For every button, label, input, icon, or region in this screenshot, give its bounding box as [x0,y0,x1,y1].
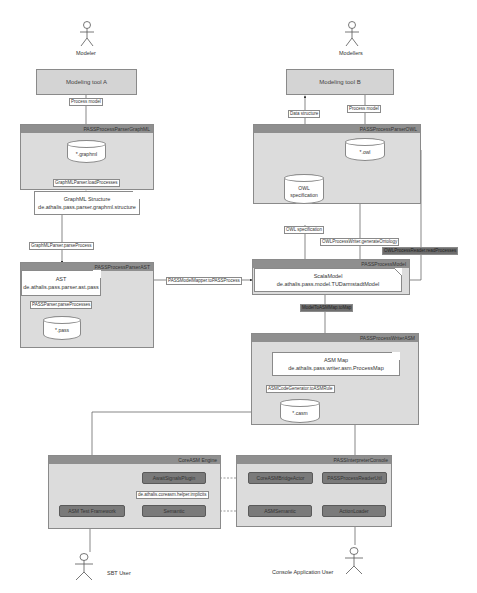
actor-label-modellers: Modellers [339,50,363,56]
component-label: AwaitSignalsPlugin [153,475,195,481]
component-label: CoreASMBridgeActor [257,475,305,481]
actor-label-modeler: Modeler [76,50,96,56]
edge-label-implicits: de.athalis.coreasm.helper.implicits [136,491,209,499]
store-label: specification [290,192,318,199]
component-await-signals-plugin: AwaitSignalsPlugin [142,472,206,484]
edge-label-generate-ontology: OWLProcessWriter.generateOntology [320,238,399,246]
actor-modellers [343,20,361,48]
package-writer-asm: PASSProcessWriterASM [251,333,419,425]
edge-label-data-structure: Data structure [288,110,320,118]
actor-icon [344,546,364,576]
package-title: PASSProcessParserGraphML [21,125,153,133]
component-asm-semantic: ASMSemantic [248,505,312,517]
edge-label-parse-process: GraphMLParser.parseProcess [29,242,94,250]
modeling-tool-b-label: Modeling tool B [319,79,360,85]
pass-file-store: *.pass [43,316,81,340]
edge-label-process-model-b: Process model [347,105,381,113]
component-label: ASMSemantic [264,508,296,514]
edge-label-to-map: ModelToASMMap.toMap [300,304,353,312]
graphml-file-store: *.graphml [67,140,106,163]
edge-label-model-mapper: PASSModelMapper.toPASSProcess [166,277,242,285]
actor-label-sbt-user: SBT User [107,570,131,576]
note-title: ASM Map [273,356,399,364]
asm-map-note: ASM Map de.athalis.pass.writer.asm.Proce… [272,352,400,376]
package-owl-parser: PASSProcessParserOWL [253,124,421,204]
component-asm-test-framework: ASM Test Framework [59,505,125,517]
actor-sbt-user [74,552,94,582]
actor-console-user [344,546,364,576]
modeling-tool-a: Modeling tool A [36,69,137,95]
actor-icon [78,20,96,48]
package-title: PASSProcessParserOWL [254,125,420,133]
component-coreasm-bridge-actor: CoreASMBridgeActor [248,472,313,484]
casm-file-store: *.casm [280,399,320,423]
package-title: PASSInterpreterConsole [237,456,391,464]
edge-label-process-model-a: Process model [69,98,103,106]
component-label: Semantic [164,508,185,514]
edge-label-owl-specification: OWL specification [284,226,324,234]
ast-note: AST de.athalis.pass.parser.ast.pass [21,270,101,296]
actor-label-console-user: Console Application User [272,569,333,575]
store-label: *.casm [292,410,307,417]
store-label: *.graphml [76,151,97,158]
owl-file-store: *.owl [345,138,385,161]
component-label: ActionLoader [339,508,368,514]
owl-specification-store: OWL specification [284,174,324,204]
component-action-loader: ActionLoader [322,505,386,517]
note-class: de.athalis.pass.parser.ast.pass [22,283,100,291]
note-class: de.athalis.pass.model.TUDarmstadtModel [255,280,401,288]
note-title: ScalaModel [255,272,401,280]
actor-modeler [78,20,96,48]
modeling-tool-b: Modeling tool B [286,69,394,95]
actor-icon [74,552,94,582]
store-label: OWL [298,185,309,192]
actor-icon [343,20,361,48]
package-title: PASSProcessWriterASM [252,334,418,342]
package-title: CoreASM Engine [49,456,220,464]
component-label: ASM Test Framework [68,508,116,514]
edge-label-load-processes: GraphMLParser.loadProcesses [53,179,120,187]
component-label: PASSProcessReaderUtil [327,475,382,481]
component-pass-process-reader-util: PASSProcessReaderUtil [322,472,387,484]
note-class: de.athalis.pass.writer.asm.ProcessMap [273,364,399,372]
edge-label-parse-processes: PASSParser.parseProcesses [30,301,92,309]
modeling-tool-a-label: Modeling tool A [66,79,107,85]
package-title: PASSProcessModel [253,260,409,268]
note-title: GraphML Structure [35,195,139,203]
store-label: *.pass [55,327,69,334]
edge-label-to-asm-rule: ASMCodeGenerator.toASMRule [266,385,335,393]
graphml-structure-note: GraphML Structure de.athalis.pass.parser… [34,191,140,215]
note-class: de.athalis.pass.parser.graphml.structure [35,203,139,211]
note-title: AST [22,275,100,283]
edge-label-read-processes: OWLProcessReader.readProcesses [382,247,458,255]
scala-model-note: ScalaModel de.athalis.pass.model.TUDarms… [254,268,402,292]
component-semantic: Semantic [142,505,206,517]
store-label: *.owl [360,149,371,156]
